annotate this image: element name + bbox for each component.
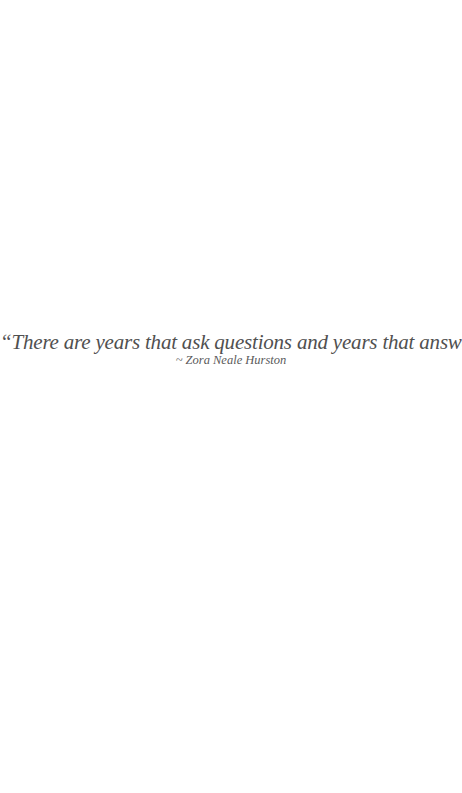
quote-text: “There are years that ask questions and … [0,329,462,355]
quote-attribution: ~ Zora Neale Hurston [0,353,462,368]
quote-block: “There are years that ask questions and … [0,329,462,368]
